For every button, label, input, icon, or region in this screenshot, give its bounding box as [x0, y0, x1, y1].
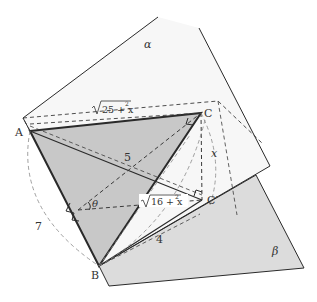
svg-text:25 + x: 25 + x [102, 104, 134, 115]
geometry-diagram: α β A C B C′ 25 + x 2 16 + x 2 7 5 4 x θ [0, 0, 317, 302]
label-CC-prime-length: x [211, 147, 218, 160]
label-C-prime: C′ [207, 194, 218, 207]
label-foot-C-prime-length: 16 + x 2 [139, 193, 188, 207]
label-theta: θ [92, 198, 98, 209]
label-alpha: α [144, 38, 152, 51]
label-C: C [204, 107, 212, 120]
label-B: B [91, 269, 99, 282]
label-BC-prime-length: 4 [156, 233, 163, 246]
label-AC-prime-length: 5 [124, 151, 131, 164]
label-beta: β [271, 245, 278, 258]
label-AB-length: 7 [35, 220, 42, 233]
svg-text:2: 2 [125, 100, 129, 107]
label-A: A [14, 126, 24, 139]
svg-text:2: 2 [175, 193, 179, 200]
